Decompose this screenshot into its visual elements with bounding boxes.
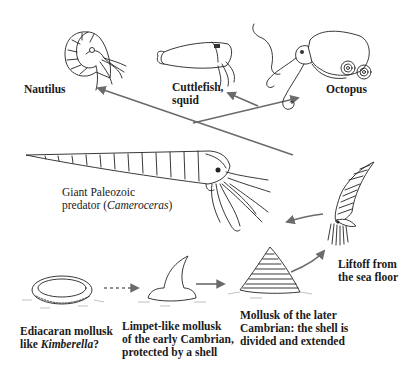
kimberella-label-italic: Kimberella [41,338,93,350]
later-cambrian-label-line-1: Mollusk of the later [240,309,348,322]
limpet-label-line-1: Limpet-like mollusk [122,320,234,333]
cameroceras-label-italic: Cameroceras [107,199,169,211]
evolution-diagram: Nautilus Cuttlefish, squid Octopus Giant… [0,0,410,372]
arrow-liftoff-to-cameroceras [287,214,323,222]
nautilus-illustration [65,32,126,90]
nautilus-label: Nautilus [24,83,66,96]
cuttlefish-label-line-2: squid [172,94,223,107]
liftoff-label-line-1: Liftoff from [338,258,398,271]
cuttlefish-label-line-1: Cuttlefish, [172,81,223,94]
kimberella-label-text: like [20,338,41,350]
arrow-branch-to-cuttlefish [228,93,258,106]
later-cambrian-label-line-2: Cambrian: the shell is [240,322,348,335]
liftoff-cephalopod-illustration [328,162,374,245]
cameroceras-label-line-1: Giant Paleozoic [62,186,172,199]
liftoff-label: Liftoff from the sea floor [338,258,398,284]
limpet-label: Limpet-like mollusk of the early Cambria… [122,320,234,359]
cameroceras-label-line-2: predator (Cameroceras) [62,199,172,212]
liftoff-label-line-2: the sea floor [338,271,398,284]
octopus-label: Octopus [326,83,367,96]
octopus-illustration [253,24,371,109]
cuttlefish-label: Cuttlefish, squid [172,81,223,107]
conical-shell-mollusk-illustration [228,247,312,298]
later-cambrian-label-line-3: divided and extended [240,335,348,348]
kimberella-illustration [22,276,104,308]
nautilus-label-line: Nautilus [24,83,66,95]
cameroceras-label: Giant Paleozoic predator (Cameroceras) [62,186,172,212]
kimberella-label-line-1: Ediacaran mollusk [20,325,113,338]
octopus-label-line: Octopus [326,83,367,95]
limpet-label-line-3: protected by a shell [122,346,234,359]
cameroceras-label-suffix: ) [169,199,173,211]
kimberella-label: Ediacaran mollusk like Kimberella? [20,325,113,351]
later-cambrian-label: Mollusk of the later Cambrian: the shell… [240,309,348,348]
kimberella-label-line-2: like Kimberella? [20,338,113,351]
limpet-illustration [138,256,206,306]
cameroceras-label-text: predator ( [62,199,107,211]
cuttlefish-illustration [157,42,234,86]
limpet-label-line-2: of the early Cambrian, [122,333,234,346]
kimberella-label-suffix: ? [93,338,99,350]
arrow-cambrian-to-liftoff [291,251,324,272]
